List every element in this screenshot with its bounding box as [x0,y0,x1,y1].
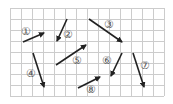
vector-label-2: ② [63,28,73,41]
vector-grid-figure: ①②③④⑤⑥⑦⑧ [0,0,173,104]
vector-label-8: ⑧ [86,83,96,96]
vector-label-3: ③ [104,18,114,31]
arrow-group [23,19,144,88]
label-group: ①②③④⑤⑥⑦⑧ [21,18,150,96]
vector-label-1: ① [21,25,31,38]
vector-label-7: ⑦ [140,59,150,72]
grid-canvas: ①②③④⑤⑥⑦⑧ [0,0,173,104]
vector-label-6: ⑥ [102,54,112,67]
vector-label-5: ⑤ [72,54,82,67]
vector-label-4: ④ [26,67,36,80]
